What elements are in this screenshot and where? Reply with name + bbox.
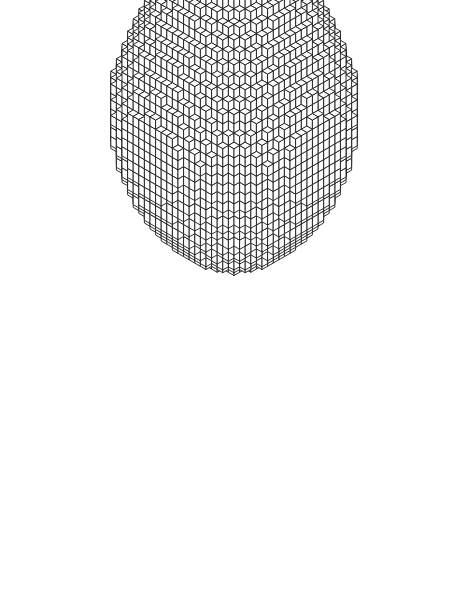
voxel-egg-illustration (0, 0, 469, 599)
voxel-cube-group (111, 0, 357, 276)
figure-canvas (0, 0, 469, 599)
